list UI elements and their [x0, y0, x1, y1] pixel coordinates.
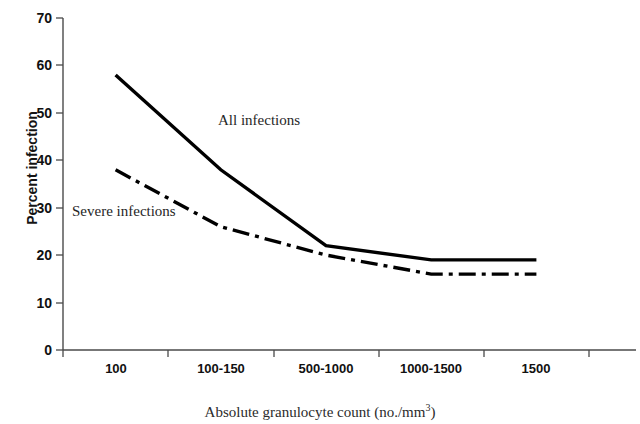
series-annotation-all-infections: All infections [218, 112, 300, 129]
x-axis-title: Absolute granulocyte count (no./mm3) [0, 404, 640, 421]
series-annotation-severe-infections: Severe infections [72, 203, 176, 220]
chart-figure: Percent infection 70 60 50 40 30 20 10 0… [0, 0, 640, 424]
x-axis-title-tail: ) [430, 404, 435, 420]
x-axis-ticks [63, 350, 589, 357]
series-line-all-infections [116, 75, 537, 260]
x-axis-title-main: Absolute granulocyte count (no./mm [205, 404, 426, 420]
y-axis-ticks [56, 18, 63, 350]
